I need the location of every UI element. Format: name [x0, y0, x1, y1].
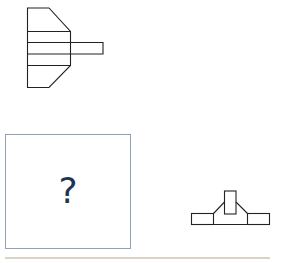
projection-shape-option: [192, 191, 270, 225]
divider: [5, 257, 270, 259]
question-mark: ?: [58, 173, 77, 209]
answer-box[interactable]: ?: [5, 134, 131, 249]
projection-shape-top: [28, 8, 104, 88]
